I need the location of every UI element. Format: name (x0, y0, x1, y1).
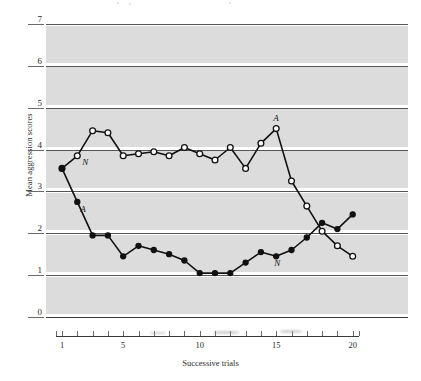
data-point-N-2 (74, 153, 80, 159)
data-point-A-12 (228, 271, 233, 276)
data-point-N-20 (350, 253, 356, 259)
data-point-A-7 (151, 247, 156, 252)
data-point-N-12 (227, 145, 233, 151)
scan-smudge-0 (213, 331, 239, 334)
data-point-N-11 (212, 157, 218, 163)
data-point-A-6 (136, 243, 141, 248)
data-point-A-17 (304, 235, 309, 240)
data-point-A-1 (59, 166, 64, 171)
data-point-A-11 (212, 271, 217, 276)
curve-label-A-peak: A (273, 113, 279, 123)
scan-smudge-2 (150, 332, 166, 334)
data-point-N-17 (304, 203, 310, 209)
data-point-N-9 (182, 145, 188, 151)
data-point-A-10 (197, 271, 202, 276)
data-point-A-14 (258, 250, 263, 255)
data-point-A-18 (320, 220, 325, 225)
data-point-A-3 (90, 233, 95, 238)
data-point-A-16 (289, 247, 294, 252)
data-point-N-3 (90, 128, 96, 134)
data-point-A-4 (105, 233, 110, 238)
data-point-N-5 (120, 153, 126, 159)
data-point-N-18 (319, 228, 325, 234)
data-point-A-9 (182, 258, 187, 263)
data-point-N-8 (166, 153, 172, 159)
data-point-N-19 (335, 243, 341, 249)
data-point-N-13 (243, 166, 249, 172)
curve-label-N-start: N (82, 157, 88, 167)
data-point-N-10 (197, 151, 203, 157)
series-line-A (62, 168, 353, 273)
data-point-A-20 (350, 212, 355, 217)
data-point-N-7 (151, 149, 157, 155)
data-point-A-5 (121, 254, 126, 259)
chart-figure: Mean aggression scores Successive trials… (0, 0, 421, 381)
data-point-A-13 (243, 260, 248, 265)
data-curves (0, 0, 421, 381)
data-point-N-4 (105, 130, 111, 136)
data-point-A-19 (335, 227, 340, 232)
data-point-N-16 (289, 178, 295, 184)
data-point-N-15 (273, 126, 279, 132)
data-point-N-14 (258, 140, 264, 146)
curve-label-N-trough: N (274, 258, 280, 268)
data-point-N-6 (136, 151, 142, 157)
data-point-A-8 (167, 252, 172, 257)
scan-smudge-1 (280, 330, 302, 333)
curve-label-A-start: A (80, 204, 86, 214)
